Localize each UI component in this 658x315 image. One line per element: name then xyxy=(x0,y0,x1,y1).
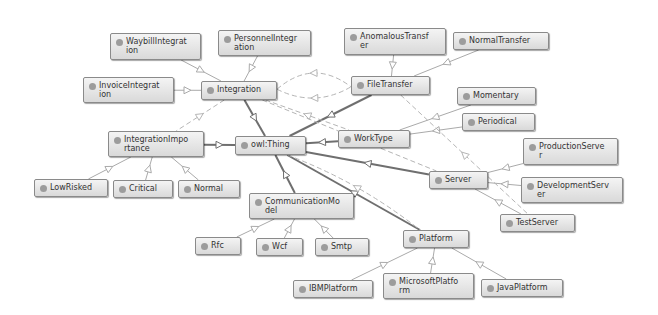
class-icon xyxy=(241,142,248,149)
subclass-arrow-icon xyxy=(319,139,326,146)
class-icon xyxy=(262,244,269,251)
class-label: Server xyxy=(445,175,483,184)
class-icon xyxy=(529,144,536,151)
subclass-arrow-icon xyxy=(443,58,451,64)
class-label: CommunicationMo del xyxy=(265,197,349,215)
class-icon xyxy=(409,236,416,243)
class-node-lowrisked[interactable]: LowRisked xyxy=(34,179,108,197)
subclass-arrow-icon xyxy=(429,257,436,264)
class-node-ibm[interactable]: IBMPlatform xyxy=(293,280,373,298)
class-icon xyxy=(468,119,475,126)
subclass-arrow-icon xyxy=(476,262,484,269)
class-label: AnomalousTransf er xyxy=(360,32,441,50)
class-icon xyxy=(487,285,494,292)
class-label: MicrosoftPlatfo rm xyxy=(399,277,469,295)
class-node-integration[interactable]: Integration xyxy=(201,81,277,100)
subclass-arrow-icon xyxy=(250,113,257,121)
class-label: FileTransfer xyxy=(367,80,425,89)
class-label: Platform xyxy=(419,234,464,243)
subclass-arrow-icon xyxy=(389,62,396,69)
class-label: IntegrationImpo rtance xyxy=(124,135,199,153)
class-label: Momentary xyxy=(473,91,531,100)
class-label: DevelopmentServ er xyxy=(537,181,618,199)
subclass-arrow-icon xyxy=(284,171,290,179)
subclass-arrow-icon xyxy=(285,225,291,233)
class-label: Periodical xyxy=(478,117,530,126)
class-node-development[interactable]: DevelopmentServ er xyxy=(521,177,623,203)
ontology-graph-canvas[interactable]: owl:Thing Integration WaybillIntegrat io… xyxy=(0,0,658,315)
class-icon xyxy=(207,87,214,94)
class-icon xyxy=(89,83,96,90)
class-label: Integration xyxy=(217,85,272,94)
class-node-personnel[interactable]: PersonnelIntegr ation xyxy=(218,30,311,56)
class-node-filetransfer[interactable]: FileTransfer xyxy=(351,76,430,95)
class-node-commmodel[interactable]: CommunicationMo del xyxy=(249,193,354,219)
class-icon xyxy=(506,220,513,227)
class-icon xyxy=(255,199,262,206)
class-node-normal[interactable]: Normal xyxy=(178,180,240,198)
class-node-momentary[interactable]: Momentary xyxy=(457,87,536,105)
subclass-arrow-icon xyxy=(310,69,317,76)
class-icon xyxy=(389,279,396,286)
class-node-thing[interactable]: owl:Thing xyxy=(235,136,306,155)
class-label: NormalTransfer xyxy=(469,36,544,45)
subclass-arrow-icon xyxy=(495,200,503,206)
subclass-arrow-icon xyxy=(216,141,223,148)
class-icon xyxy=(321,244,328,251)
subclass-arrow-icon xyxy=(251,226,259,232)
subclass-arrow-icon xyxy=(195,114,203,121)
class-label: Critical xyxy=(129,184,168,193)
subclass-arrow-icon xyxy=(196,66,204,72)
class-node-periodical[interactable]: Periodical xyxy=(462,113,535,131)
class-label: Normal xyxy=(194,184,235,193)
class-icon xyxy=(116,39,123,46)
class-label: Smtp xyxy=(331,242,364,251)
subclass-arrow-icon xyxy=(105,166,113,172)
class-label: Wcf xyxy=(272,242,298,251)
class-icon xyxy=(201,243,208,250)
class-node-platform[interactable]: Platform xyxy=(403,230,469,248)
class-icon xyxy=(224,36,231,43)
class-icon xyxy=(459,38,466,45)
class-node-testserver[interactable]: TestServer xyxy=(500,214,575,232)
class-icon xyxy=(463,93,470,100)
class-label: Rfc xyxy=(211,241,236,250)
subclass-arrow-icon xyxy=(327,111,335,117)
class-node-critical[interactable]: Critical xyxy=(113,180,173,198)
class-icon xyxy=(435,177,442,184)
class-label: LowRisked xyxy=(50,183,103,192)
class-icon xyxy=(527,183,534,190)
class-icon xyxy=(114,137,121,144)
subclass-arrow-icon xyxy=(432,113,440,120)
class-label: IBMPlatform xyxy=(309,284,368,293)
class-icon xyxy=(350,34,357,41)
class-node-rfc[interactable]: Rfc xyxy=(195,237,241,255)
class-icon xyxy=(299,286,306,293)
class-node-anomalous[interactable]: AnomalousTransf er xyxy=(344,28,446,55)
class-node-normaltransfer[interactable]: NormalTransfer xyxy=(453,32,549,50)
class-node-server[interactable]: Server xyxy=(429,171,488,189)
class-node-importance[interactable]: IntegrationImpo rtance xyxy=(108,131,204,157)
class-node-wcf[interactable]: Wcf xyxy=(256,238,303,256)
class-label: owl:Thing xyxy=(251,140,301,149)
class-icon xyxy=(184,186,191,193)
class-icon xyxy=(344,136,351,143)
class-node-invoice[interactable]: InvoiceIntegrat ion xyxy=(83,77,174,103)
class-node-java[interactable]: JavaPlatform xyxy=(481,279,563,297)
class-node-smtp[interactable]: Smtp xyxy=(315,238,369,256)
subclass-arrow-icon xyxy=(501,181,508,188)
class-node-production[interactable]: ProductionServe r xyxy=(523,138,618,165)
class-icon xyxy=(40,185,47,192)
subclass-arrow-icon xyxy=(184,87,191,94)
class-node-waybill[interactable]: WaybillIntegrat ion xyxy=(110,33,201,60)
subclass-arrow-icon xyxy=(249,64,255,72)
class-label: TestServer xyxy=(516,218,570,227)
class-node-microsoft[interactable]: MicrosoftPlatfo rm xyxy=(383,273,474,299)
class-label: WorkType xyxy=(354,134,405,143)
subclass-arrow-icon xyxy=(380,262,388,268)
class-node-worktype[interactable]: WorkType xyxy=(338,130,410,148)
class-icon xyxy=(119,186,126,193)
subclass-arrow-icon xyxy=(502,164,510,171)
subclass-arrow-icon xyxy=(145,165,152,173)
class-icon xyxy=(357,82,364,89)
